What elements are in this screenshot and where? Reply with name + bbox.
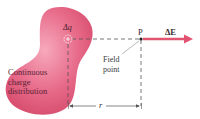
distance-arrowhead-left-icon [69, 104, 73, 107]
diagram-canvas: Δq P ΔE r Continuous charge distribution… [0, 0, 200, 119]
charge-element-label: Δq [63, 24, 72, 32]
charge-distribution-label: Continuous charge distribution [8, 68, 47, 97]
distance-arrowhead-right-icon [136, 104, 140, 107]
field-point-dot [139, 37, 142, 40]
field-point-label: Field point [103, 55, 119, 74]
point-label: P [138, 28, 143, 37]
vector-label: ΔE [165, 28, 176, 37]
charge-distribution-blob [6, 7, 93, 115]
field-point-leader [122, 41, 139, 54]
distance-label: r [99, 101, 102, 110]
delta-e-arrowhead-icon [184, 35, 193, 44]
